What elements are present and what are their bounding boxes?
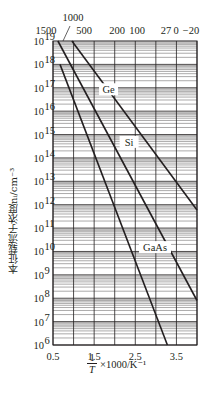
curve-label-gaas: GaAs [143, 242, 167, 253]
y-tick-exponent: 6 [45, 335, 50, 346]
y-tick-exponent: 14 [45, 148, 56, 159]
top-tick-label: −20 [183, 25, 199, 36]
y-tick-label: 10 [34, 59, 45, 70]
x-axis-fraction-denominator: T [87, 364, 97, 375]
y-tick-label: 10 [34, 36, 45, 47]
intrinsic-carrier-chart: GeSiGaAs 1019101810171016101510141013101… [0, 0, 216, 399]
top-tick-leader-line [63, 26, 70, 41]
y-tick-label: 10 [34, 176, 45, 187]
y-tick-label: 10 [34, 293, 45, 304]
y-tick-exponent: 7 [45, 312, 50, 323]
x-axis-fraction-numerator: 1 [87, 352, 97, 364]
plot-grid [53, 41, 197, 345]
top-tick-label: 1500 [36, 25, 57, 36]
y-axis-ticks: 1019101810171016101510141013101210111010… [34, 31, 56, 351]
x-axis-unit: ×1000/K⁻¹ [100, 358, 146, 370]
y-tick-label: 10 [34, 223, 45, 234]
y-tick-label: 10 [34, 270, 45, 281]
top-tick-label: 200 [109, 25, 125, 36]
top-tick-label: 1000 [63, 12, 84, 23]
curve-label-ge: Ge [102, 84, 115, 95]
y-tick-label: 10 [34, 340, 45, 351]
curve-label-si: Si [125, 137, 134, 148]
top-tick-label: 100 [129, 25, 145, 36]
x-tick-label: 0.5 [46, 351, 59, 362]
y-tick-label: 10 [34, 153, 45, 164]
y-tick-label: 10 [34, 200, 45, 211]
x-axis-fraction: 1 T [87, 352, 97, 375]
x-axis-label: 1 T ×1000/K⁻¹ [60, 350, 190, 378]
top-temperature-axis: 15001000500200100270−20 [36, 12, 200, 41]
y-tick-exponent: 9 [45, 265, 50, 276]
y-axis-label: 本征载流子浓度nᵢ/cm⁻³ [6, 150, 22, 292]
y-tick-label: 10 [34, 317, 45, 328]
y-tick-label: 10 [34, 83, 45, 94]
y-tick-label: 10 [34, 246, 45, 257]
y-tick-label: 10 [34, 106, 45, 117]
top-tick-label: 27 [161, 25, 172, 36]
top-tick-label: 500 [76, 25, 92, 36]
y-tick-exponent: 8 [45, 288, 50, 299]
y-tick-label: 10 [34, 130, 45, 141]
top-tick-label: 0 [173, 25, 178, 36]
